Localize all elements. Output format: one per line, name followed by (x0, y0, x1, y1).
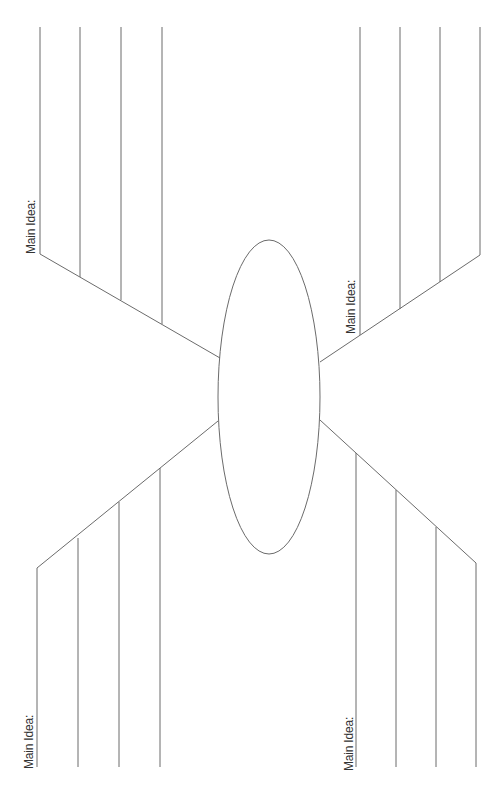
center-topic-oval (218, 240, 320, 554)
branch-diagonal-line (320, 420, 476, 563)
bottom-left-main-idea-label: Main Idea: (23, 715, 35, 769)
branch-bottom-right (320, 420, 476, 767)
branch-diagonal-line (40, 254, 220, 358)
branch-diagonal-line (37, 421, 218, 568)
branch-bottom-left (37, 421, 218, 767)
top-left-main-idea-label: Main Idea: (25, 200, 37, 254)
main-idea-organizer-diagram (0, 0, 502, 793)
branch-top-left (40, 27, 220, 358)
top-right-main-idea-label: Main Idea: (345, 280, 357, 334)
bottom-right-main-idea-label: Main Idea: (343, 717, 355, 771)
